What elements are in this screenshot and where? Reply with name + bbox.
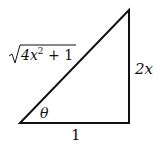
angle-label: θ <box>40 105 49 121</box>
right-triangle <box>20 10 129 123</box>
opposite-side-label: 2x <box>134 60 154 78</box>
adjacent-side-label: 1 <box>71 126 81 144</box>
triangle-svg: 4x2 + 1 2x θ 1 <box>0 0 158 147</box>
hypotenuse-label: 4x2 + 1 <box>20 46 73 63</box>
triangle-diagram: 4x2 + 1 2x θ 1 <box>0 0 158 147</box>
